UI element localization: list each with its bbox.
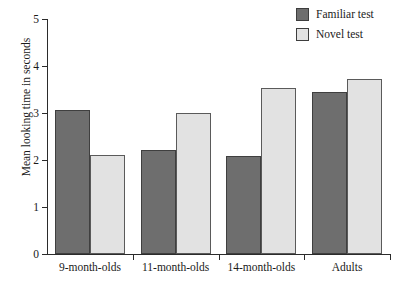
bar-familiar-0 <box>55 110 90 254</box>
x-category-label-0: 9-month-olds <box>59 261 121 273</box>
y-tick-2 <box>42 160 47 161</box>
y-tick-label-1: 1 <box>33 201 39 213</box>
y-tick-0 <box>42 254 47 255</box>
x-group-tick-1 <box>133 255 134 260</box>
bar-familiar-2 <box>226 156 261 254</box>
x-category-label-3: Adults <box>332 261 363 273</box>
x-category-label-2: 14-month-olds <box>228 261 296 273</box>
x-group-tick-end <box>390 255 391 260</box>
x-group-tick-3 <box>304 255 305 260</box>
y-tick-3 <box>42 113 47 114</box>
y-tick-label-5: 5 <box>33 13 39 25</box>
y-axis-line <box>47 19 48 255</box>
y-tick-1 <box>42 207 47 208</box>
y-tick-label-2: 2 <box>33 154 39 166</box>
bar-novel-1 <box>176 113 211 254</box>
y-axis-label: Mean looking time in seconds <box>20 17 32 197</box>
bar-novel-0 <box>90 155 125 254</box>
x-category-label-1: 11-month-olds <box>142 261 209 273</box>
bar-novel-2 <box>261 88 296 254</box>
y-tick-label-3: 3 <box>33 107 39 119</box>
y-tick-5 <box>42 19 47 20</box>
y-tick-label-4: 4 <box>33 60 39 72</box>
x-group-tick-2 <box>219 255 220 260</box>
plot-area: 012345 9-month-olds11-month-olds14-month… <box>47 19 390 254</box>
bar-familiar-1 <box>141 150 176 254</box>
y-tick-4 <box>42 66 47 67</box>
y-tick-label-0: 0 <box>33 248 39 260</box>
bar-chart: Familiar test Novel test Mean looking ti… <box>0 0 405 286</box>
bar-familiar-3 <box>312 92 347 254</box>
bar-novel-3 <box>347 79 382 254</box>
